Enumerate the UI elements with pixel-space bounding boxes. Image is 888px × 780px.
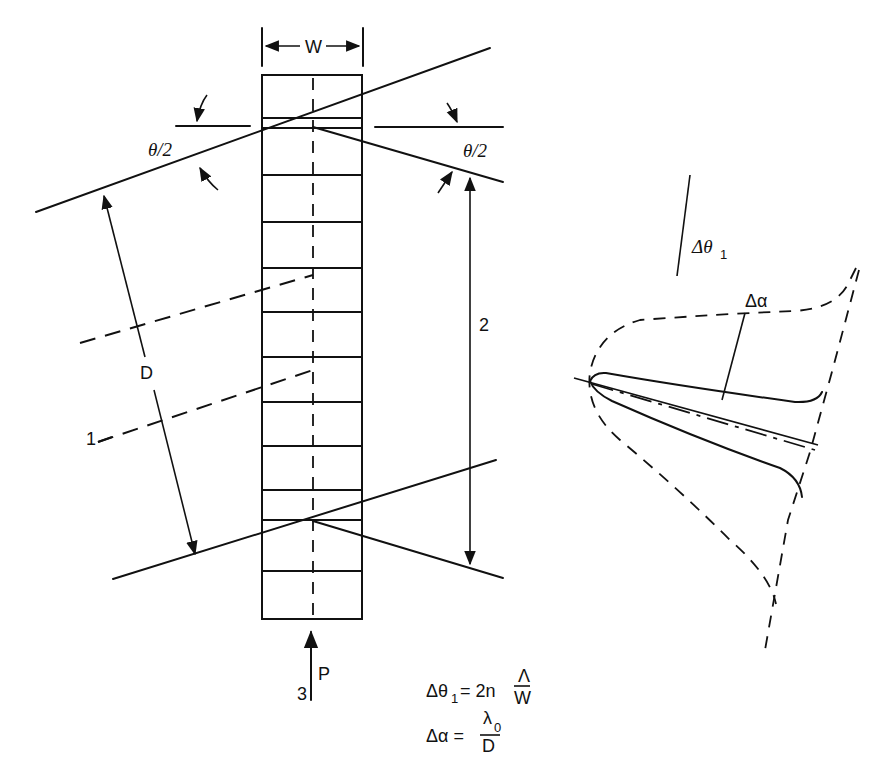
eq1-lhs: Δθ	[426, 681, 448, 701]
equations: Δθ 1 = 2n Λ W Δα = λ 0 D	[426, 666, 531, 756]
angular-response-plot: Δθ 1 Δα	[574, 175, 859, 650]
eq1-numerator: Λ	[518, 666, 530, 686]
angle-label-right: θ/2	[463, 140, 488, 161]
angle-marker-left: θ/2	[148, 95, 250, 190]
eq2-numerator: λ	[483, 708, 492, 728]
callout-1: 1	[86, 429, 96, 449]
eq1-lhs-sub: 1	[451, 691, 458, 706]
spacing-dimension: D	[104, 196, 195, 554]
dashed-rays	[80, 275, 313, 442]
callout-1-leader	[98, 437, 112, 442]
callout-3: 3	[297, 684, 307, 704]
delta-theta-sub: 1	[720, 247, 727, 262]
delta-theta-label: Δθ	[691, 236, 712, 257]
beam-label: P	[318, 664, 330, 684]
eq2-lhs: Δα =	[426, 726, 464, 746]
upper-crossing-rays	[36, 48, 503, 212]
dimension-2: 2	[470, 178, 489, 564]
angle-label-left: θ/2	[148, 139, 173, 160]
spacing-label: D	[140, 363, 153, 383]
delta-alpha-label: Δα	[745, 291, 767, 311]
diagram-canvas: W θ/2	[0, 0, 888, 780]
width-label: W	[305, 37, 322, 57]
eq1-denominator: W	[514, 688, 531, 708]
input-beam: 3 P	[297, 632, 330, 704]
eq2-denominator: D	[482, 736, 495, 756]
grating-stack	[262, 75, 362, 619]
angle-marker-right: θ/2	[375, 103, 503, 193]
callout-2: 2	[479, 315, 489, 335]
width-dimension: W	[262, 28, 363, 66]
eq2-numerator-sub: 0	[494, 720, 501, 735]
eq1-mid: = 2n	[460, 681, 496, 701]
